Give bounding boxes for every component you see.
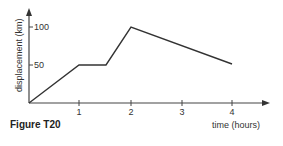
x-tick-label: 4 (229, 107, 234, 117)
x-tick-label: 3 (179, 107, 184, 117)
x-axis-label: time (hours) (212, 120, 260, 130)
y-tick-label: 50 (34, 60, 44, 70)
displacement-line (29, 27, 232, 103)
x-tick-label: 2 (128, 107, 133, 117)
x-tick-label: 1 (76, 107, 81, 117)
y-axis-arrow-icon (26, 8, 32, 16)
y-tick-label: 100 (34, 22, 49, 32)
y-axis-label: displacement (km) (14, 18, 24, 92)
y-ticks: 50 100 (29, 22, 49, 70)
x-axis-arrow-icon (262, 100, 270, 106)
figure-caption: Figure T20 (10, 119, 61, 130)
